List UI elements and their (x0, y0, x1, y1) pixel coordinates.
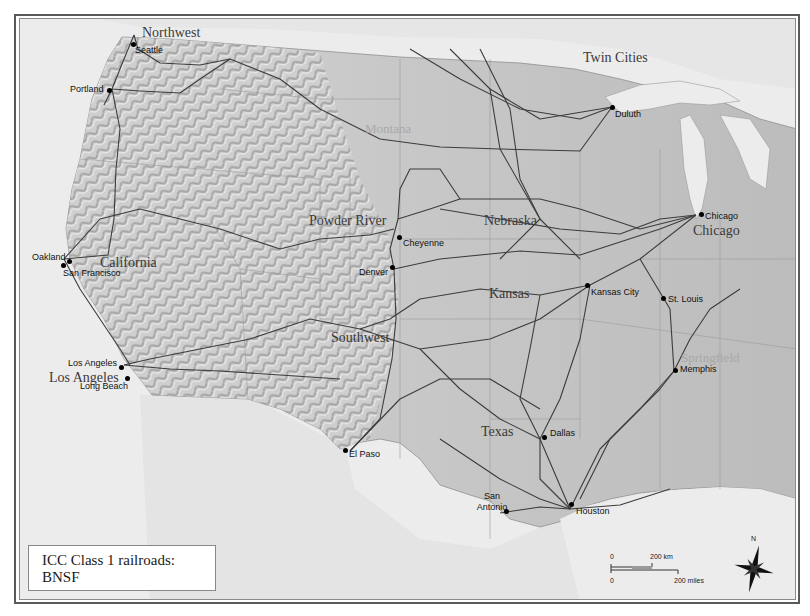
city-dot-kansas-city (585, 283, 590, 288)
city-dot-oakland (67, 259, 72, 264)
city-dot-el-paso (343, 448, 348, 453)
city-dot-houston (569, 502, 574, 507)
city-label-long-beach: Long Beach (80, 382, 128, 391)
scale-mi-label: 200 miles (674, 577, 704, 584)
city-label-dallas: Dallas (550, 429, 575, 438)
city-label-denver: Denver (359, 268, 388, 277)
region-label-chicago: Chicago (693, 224, 740, 238)
region-label-twin-cities: Twin Cities (583, 51, 648, 65)
city-label-st-louis: St. Louis (668, 295, 703, 304)
region-label-southwest: Southwest (331, 331, 389, 345)
city-label-duluth: Duluth (615, 110, 641, 119)
compass-north-label: N (751, 535, 756, 542)
scale-km-zero: 0 (610, 553, 614, 560)
legend-railroad-name: BNSF (42, 569, 215, 586)
region-label-springfield: Springfield (681, 351, 740, 364)
city-label-houston: Houston (576, 507, 610, 516)
city-label-kansas-city: Kansas City (591, 288, 639, 297)
region-label-texas: Texas (481, 425, 513, 439)
city-label-san-antonio-line: San Antonio (472, 491, 512, 513)
city-dot-chicago (699, 212, 704, 217)
city-label-los-angeles: Los Angeles (68, 359, 117, 368)
scale-mi-zero: 0 (610, 577, 614, 584)
map-legend: ICC Class 1 railroads: BNSF (28, 545, 216, 591)
compass-rose: N (732, 535, 776, 595)
city-dot-los-angeles (119, 365, 124, 370)
region-label-powder-river: Powder River (309, 214, 386, 228)
us-relief-map (20, 19, 796, 600)
region-label-northwest: Northwest (142, 26, 200, 40)
region-label-kansas: Kansas (489, 287, 529, 301)
city-dot-dallas (542, 435, 547, 440)
city-label-san-francisco: San Francisco (63, 269, 121, 278)
city-dot-portland (107, 88, 112, 93)
city-dot-denver (390, 265, 395, 270)
scale-km-label: 200 km (650, 553, 673, 560)
region-label-montana: Montana (365, 122, 411, 135)
city-label-cheyenne: Cheyenne (403, 239, 444, 248)
scale-bar-graphic (610, 563, 720, 577)
city-label-portland: Portland (70, 85, 104, 94)
city-dot-cheyenne (397, 235, 402, 240)
scale-bar: 0 200 km 0 200 miles (610, 553, 720, 593)
city-label-oakland: Oakland (32, 253, 66, 262)
city-label-el-paso: El Paso (349, 450, 380, 459)
region-label-nebraska: Nebraska (484, 214, 537, 228)
city-dot-memphis (673, 368, 678, 373)
city-dot-st-louis (661, 296, 666, 301)
city-label-seattle: Seattle (135, 46, 163, 55)
city-label-chicago: Chicago (705, 212, 738, 221)
legend-title: ICC Class 1 railroads: (42, 552, 215, 569)
city-label-memphis: Memphis (680, 365, 717, 374)
map-canvas: Northwest Twin Cities Montana Powder Riv… (19, 18, 796, 600)
compass-star-icon (732, 543, 776, 595)
